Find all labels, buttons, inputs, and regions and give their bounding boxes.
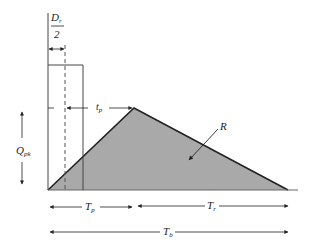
base-time-label: Tb <box>163 225 173 239</box>
hydrograph-triangle <box>48 108 288 190</box>
time-to-peak-label: Tp <box>85 200 95 214</box>
runoff-volume-label: R <box>219 120 227 132</box>
unit-hydrograph-diagram: Dr 2 tp Qpk R Tp Tr Tb <box>0 0 316 248</box>
peak-flow-label: Qpk <box>16 144 31 158</box>
lag-time-label: tp <box>96 101 103 114</box>
recession-time-label: Tr <box>207 199 216 213</box>
duration-label-denominator: 2 <box>54 28 60 40</box>
duration-label-numerator: Dr <box>50 11 62 25</box>
